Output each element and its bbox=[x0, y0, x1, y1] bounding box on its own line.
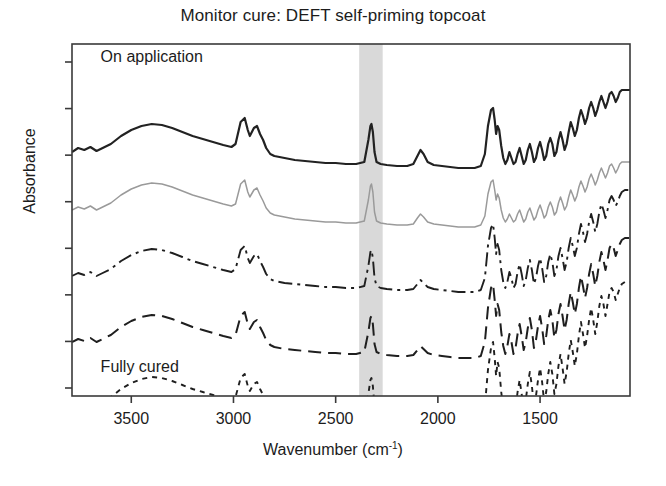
x-tick-label-2500: 2500 bbox=[318, 410, 354, 427]
axis-frame bbox=[72, 44, 630, 396]
spectrum-trace-2 bbox=[72, 162, 630, 227]
x-tick-label-1500: 1500 bbox=[522, 410, 558, 427]
spectra-plot: 35003000250020001500 On applicationFully… bbox=[0, 0, 666, 486]
spectrum-trace-3 bbox=[72, 190, 630, 292]
axis-frame-layer bbox=[72, 44, 630, 396]
on-application-label: On application bbox=[101, 48, 203, 65]
x-tick-label-2000: 2000 bbox=[420, 410, 456, 427]
co2-band bbox=[359, 44, 383, 396]
fully-cured-label: Fully cured bbox=[101, 358, 179, 375]
shaded-band-layer bbox=[359, 44, 383, 396]
spectrum-trace-5 bbox=[72, 282, 630, 421]
spectrum-trace-1 bbox=[72, 90, 630, 168]
spectrum-trace-4 bbox=[72, 238, 630, 358]
x-tick-label-3500: 3500 bbox=[113, 410, 149, 427]
chart-root: Monitor cure: DEFT self-priming topcoat … bbox=[0, 0, 666, 486]
x-tick-label-3000: 3000 bbox=[216, 410, 252, 427]
